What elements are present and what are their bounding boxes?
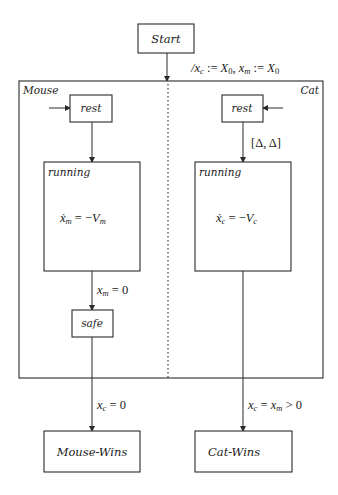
mouse-running-state: running ẋm = −Vm (44, 162, 140, 271)
mouse-wins-guard: xc = 0 (96, 398, 126, 413)
cat-delay-guard: [Δ, Δ] (251, 136, 281, 150)
mouse-running-label: running (48, 166, 90, 178)
mouse-safe-guard: xm = 0 (96, 283, 128, 298)
cat-wins-guard: xc = xm > 0 (247, 398, 302, 413)
mouse-rest-label: rest (81, 102, 103, 114)
cat-wins-label: Cat-Wins (208, 445, 260, 459)
statechart-diagram: Start /xc := X0, xm := X0 Mouse Cat rest… (0, 0, 338, 495)
cat-running-label: running (199, 166, 241, 178)
mouse-wins-state: Mouse-Wins (44, 431, 140, 472)
cat-rest-state: rest (222, 95, 263, 122)
mouse-safe-label: safe (81, 317, 103, 329)
mouse-rest-state: rest (70, 95, 112, 122)
start-state: Start (138, 24, 194, 53)
cat-flow-equation: ẋc = −Vc (215, 211, 257, 226)
mouse-region-label: Mouse (22, 84, 58, 96)
mouse-wins-label: Mouse-Wins (56, 445, 128, 459)
start-label: Start (151, 32, 181, 46)
cat-region-label: Cat (300, 84, 319, 96)
cat-rest-label: rest (232, 102, 254, 114)
cat-wins-state: Cat-Wins (195, 431, 292, 472)
init-transition-label: /xc := X0, xm := X0 (190, 61, 279, 76)
cat-running-state: running ẋc = −Vc (195, 162, 291, 271)
mouse-safe-state: safe (72, 310, 113, 337)
